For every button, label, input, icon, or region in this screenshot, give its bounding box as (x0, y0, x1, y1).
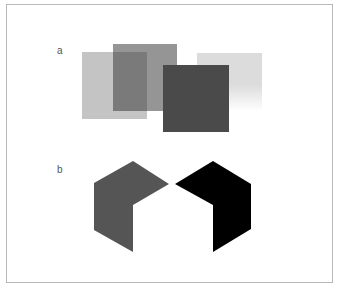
gray-hex-shape (94, 161, 169, 252)
hexagon-diagram (0, 0, 341, 290)
black-hex-shape (175, 161, 251, 252)
